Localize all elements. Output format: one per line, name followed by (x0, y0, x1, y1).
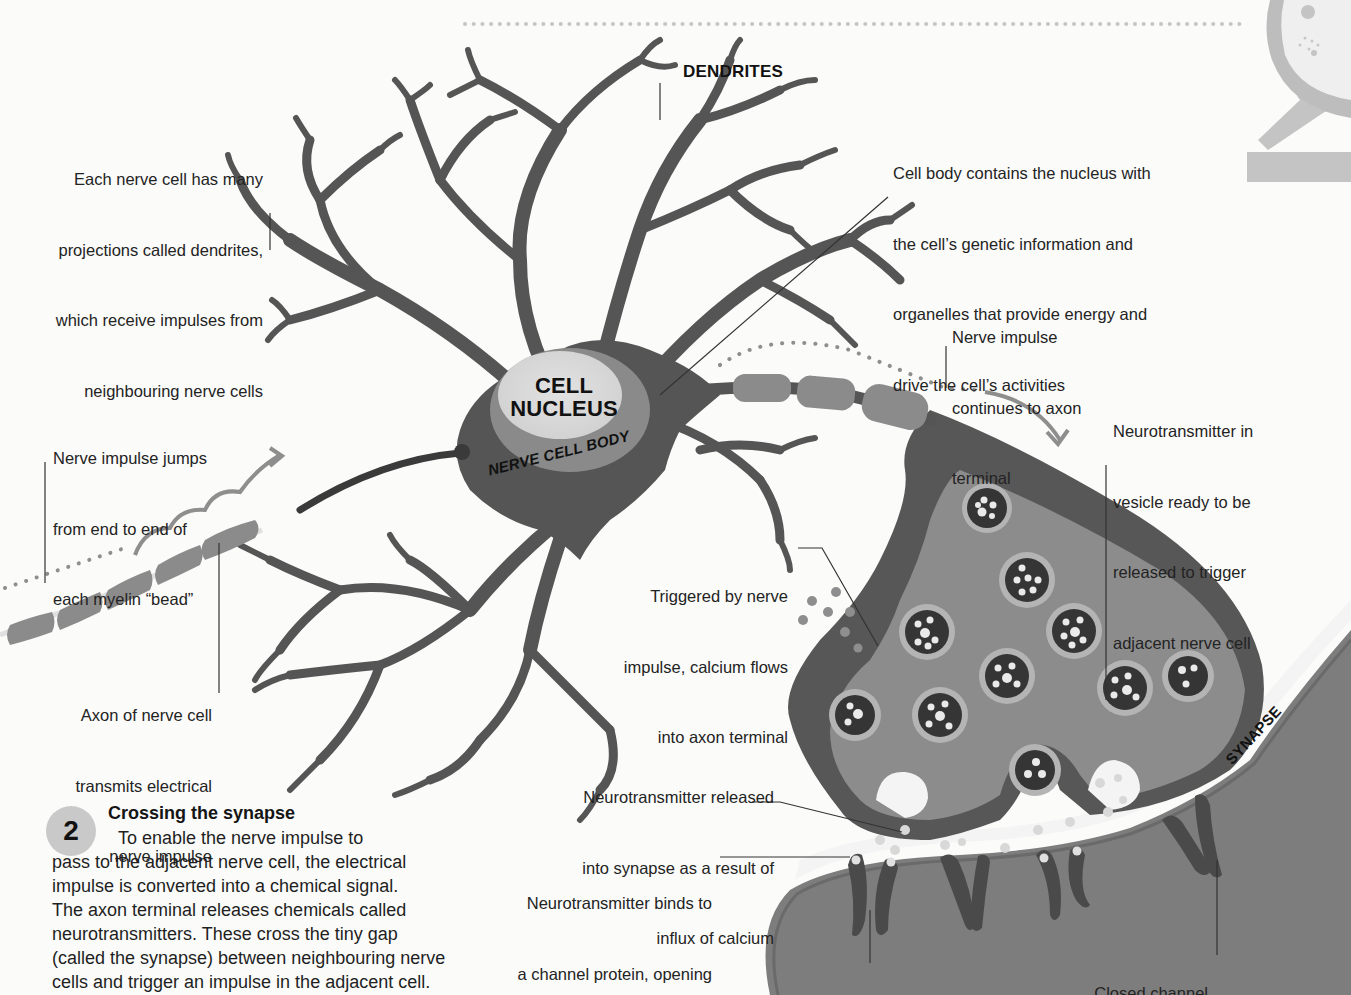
annotation-line: continues to axon (952, 397, 1081, 421)
annotation-line: Each nerve cell has many (20, 168, 263, 192)
annotation-line: a channel protein, opening (470, 963, 712, 987)
annotation-line: Nerve impulse (952, 326, 1081, 350)
annotation-line: the cell’s genetic information and (893, 233, 1151, 257)
annotation-line: Cell body contains the nucleus with (893, 162, 1151, 186)
vesicle-annotation: Neurotransmitter in vesicle ready to be … (1113, 373, 1253, 702)
annotation-line: impulse, calcium flows (560, 656, 788, 680)
vesicle (1009, 744, 1061, 796)
open-channel-annotation: Open channel protein (879, 952, 982, 995)
vesicle (979, 648, 1035, 704)
annotation-line: from end to end of (53, 518, 207, 542)
vesicle (829, 689, 881, 741)
annotation-line: projections called dendrites, (20, 239, 263, 263)
vesicle (912, 687, 968, 743)
vesicle (899, 604, 955, 660)
annotation-line: released to trigger (1113, 561, 1253, 585)
annotation-line: transmits electrical (20, 775, 212, 799)
annotation-line: Neurotransmitter in (1113, 420, 1253, 444)
section-body: To enable the nerve impulse to pass to t… (52, 826, 445, 994)
cell-nucleus-label: CELL NUCLEUS (509, 374, 619, 420)
annotation-line: terminal (952, 467, 1081, 491)
binds-annotation: Neurotransmitter binds to a channel prot… (470, 845, 712, 995)
dendrites-label: DENDRITES (683, 62, 783, 82)
annotation-line: each myelin “bead” (53, 588, 207, 612)
neuron-synapse-diagram: DENDRITES CELL NUCLEUS NERVE CELL BODY S… (0, 0, 1351, 995)
body-line: neurotransmitters. These cross the tiny … (52, 922, 445, 946)
closed-channel-annotation: Closed channel protein (1060, 935, 1208, 995)
cell-nucleus-label-line: CELL (509, 374, 619, 397)
body-line: impulse is converted into a chemical sig… (52, 874, 445, 898)
body-line: The axon terminal releases chemicals cal… (52, 898, 445, 922)
annotation-line: Nerve impulse jumps (53, 447, 207, 471)
annotation-line: adjacent nerve cell (1113, 632, 1253, 656)
annotation-line: Triggered by nerve (560, 585, 788, 609)
annotation-line: Axon of nerve cell (20, 704, 212, 728)
section-title: Crossing the synapse (108, 803, 295, 824)
microscope-cell-icon (1247, 0, 1351, 182)
cell-nucleus-label-line: NUCLEUS (509, 397, 619, 420)
vesicle (1046, 603, 1102, 659)
body-line: cells and trigger an impulse in the adja… (52, 970, 445, 994)
annotation-line: vesicle ready to be (1113, 491, 1253, 515)
body-line: (called the synapse) between neighbourin… (52, 946, 445, 970)
impulse-continues-annotation: Nerve impulse continues to axon terminal (952, 279, 1081, 538)
body-line: To enable the nerve impulse to (52, 826, 445, 850)
vesicle (999, 552, 1055, 608)
annotation-line: Neurotransmitter released (520, 786, 774, 810)
annotation-line: Closed channel (1060, 982, 1208, 995)
myelin-annotation: Nerve impulse jumps from end to end of e… (53, 400, 207, 659)
annotation-line: which receive impulses from (20, 309, 263, 333)
annotation-line: Neurotransmitter binds to (470, 892, 712, 916)
body-line: pass to the adjacent nerve cell, the ele… (52, 850, 445, 874)
